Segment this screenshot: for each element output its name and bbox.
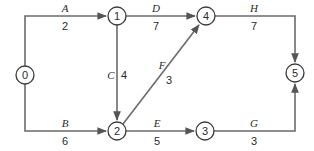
- node-4: 4: [197, 7, 215, 25]
- edge-b-duration: 6: [62, 135, 68, 147]
- node-1-label: 1: [114, 10, 120, 22]
- node-5-label: 5: [292, 67, 298, 79]
- edge-e-activity: E: [153, 117, 161, 129]
- edge-h: H 7: [215, 2, 295, 62]
- node-0-label: 0: [22, 69, 28, 81]
- edge-f-duration: 3: [166, 74, 172, 86]
- edge-h-activity: H: [249, 2, 259, 14]
- node-3-label: 3: [202, 125, 208, 137]
- edge-b: B 6: [25, 84, 106, 147]
- edge-a-duration: 2: [62, 20, 68, 32]
- edge-f-activity: F: [158, 59, 166, 71]
- edge-d: D 7: [126, 2, 195, 32]
- edge-e-duration: 5: [154, 135, 160, 147]
- node-2-label: 2: [114, 125, 120, 137]
- edge-b-activity: B: [62, 117, 69, 129]
- network-diagram: A 2 B 6 C 4 D 7 E 5 F 3 G 3 H 7: [0, 0, 314, 151]
- edge-f-arrow: [123, 25, 199, 124]
- edge-c-duration: 4: [121, 69, 127, 81]
- edge-g-activity: G: [250, 117, 258, 129]
- edge-e: E 5: [126, 117, 194, 147]
- node-2: 2: [108, 122, 126, 140]
- node-3: 3: [196, 122, 214, 140]
- edge-h-duration: 7: [251, 20, 257, 32]
- edge-a: A 2: [25, 2, 106, 66]
- edge-a-activity: A: [61, 2, 69, 14]
- edge-d-activity: D: [151, 2, 160, 14]
- edge-d-duration: 7: [153, 20, 159, 32]
- node-1: 1: [108, 7, 126, 25]
- edge-c: C 4: [107, 25, 127, 120]
- node-4-label: 4: [203, 10, 209, 22]
- edge-f: F 3: [123, 25, 199, 124]
- edge-c-activity: C: [107, 69, 115, 81]
- node-0: 0: [16, 66, 34, 84]
- edge-g-duration: 3: [251, 135, 257, 147]
- node-5: 5: [286, 64, 304, 82]
- edge-g: G 3: [214, 84, 295, 147]
